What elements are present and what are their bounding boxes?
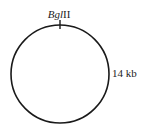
plasmid-diagram: BglII 14 kb bbox=[0, 0, 144, 128]
plasmid-size-label: 14 kb bbox=[112, 67, 137, 79]
plasmid-circle bbox=[11, 25, 109, 123]
restriction-site-label: BglII bbox=[48, 8, 71, 20]
enzyme-name-italic: Bgl bbox=[48, 8, 63, 20]
enzyme-name-roman: II bbox=[63, 8, 71, 20]
